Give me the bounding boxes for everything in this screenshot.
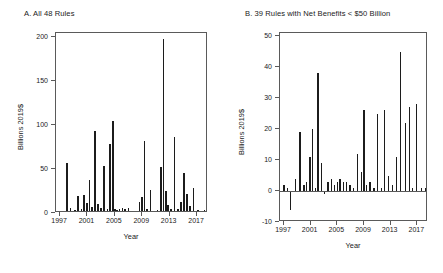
bar [186, 194, 188, 211]
bar [309, 157, 311, 191]
x-tick-label: 2017 [188, 217, 204, 224]
bar [400, 52, 402, 191]
x-tick [283, 221, 284, 225]
x-tick-label: 1997 [51, 217, 67, 224]
panel-b-x-axis-title: Year [346, 241, 361, 250]
x-tick-label: 1997 [275, 226, 291, 233]
bar [112, 121, 114, 211]
y-tick-label: 10 [264, 156, 272, 163]
y-tick [275, 190, 279, 191]
x-tick-label: 2001 [302, 226, 318, 233]
bar [124, 209, 126, 211]
bar [89, 180, 91, 211]
panel-b-y-axis: -1001020304050 [221, 32, 279, 221]
x-tick [390, 221, 391, 225]
x-tick-label: 2009 [355, 226, 371, 233]
panel-a-x-axis-title: Year [124, 232, 139, 241]
x-tick [336, 221, 337, 225]
y-tick [275, 66, 279, 67]
y-tick-label: -10 [262, 218, 272, 225]
bar [405, 123, 407, 191]
bar [97, 204, 99, 211]
y-tick [51, 168, 55, 169]
bar [321, 163, 323, 191]
panel-a-plot-area [55, 32, 207, 212]
panel-b-title: B. 39 Rules with Net Benefits < $50 Bill… [245, 9, 390, 18]
bar [91, 207, 93, 211]
x-tick-label: 2013 [161, 217, 177, 224]
bar [327, 182, 329, 191]
y-tick-label: 100 [36, 121, 48, 128]
bar [83, 195, 85, 211]
x-tick-label: 2005 [329, 226, 345, 233]
panel-a: A. All 48 Rules 050100150200 19972001200… [0, 0, 222, 273]
bar [339, 179, 341, 191]
bar [128, 208, 130, 211]
bar [409, 107, 411, 191]
panel-b: B. 39 Rules with Net Benefits < $50 Bill… [221, 0, 443, 273]
y-tick-label: 20 [264, 125, 272, 132]
bar [66, 163, 68, 211]
bar [109, 144, 111, 211]
x-tick [310, 221, 311, 225]
panel-a-x-axis: 199720012005200920132017 [55, 212, 207, 232]
bar [343, 182, 345, 191]
bar [416, 104, 418, 191]
bar [94, 131, 96, 211]
bar [377, 114, 379, 191]
bar [357, 154, 359, 191]
bar [100, 208, 102, 211]
panel-b-y-axis-title: Billions 2019$ [237, 108, 246, 154]
y-tick [51, 36, 55, 37]
bar [189, 206, 191, 211]
bar [174, 137, 176, 211]
bar [180, 202, 182, 211]
x-tick [86, 212, 87, 216]
x-tick [363, 221, 364, 225]
bar [363, 110, 365, 191]
y-tick-label: 50 [264, 32, 272, 39]
bar [163, 39, 165, 211]
bar [312, 129, 314, 191]
panel-a-y-axis-title: Billions 2019$ [16, 104, 25, 150]
panel-a-title: A. All 48 Rules [24, 9, 75, 18]
panel-b-plot-area [279, 32, 427, 221]
bar [197, 210, 199, 211]
bar [103, 166, 105, 211]
bar [299, 132, 301, 191]
bar [369, 182, 371, 191]
panel-a-y-axis: 050100150200 [0, 32, 55, 212]
y-tick [275, 128, 279, 129]
bar [396, 157, 398, 191]
bar [384, 110, 386, 191]
x-tick-label: 2005 [106, 217, 122, 224]
bar [70, 208, 72, 211]
figure-container: A. All 48 Rules 050100150200 19972001200… [0, 0, 443, 273]
bar [144, 141, 146, 211]
y-tick-label: 40 [264, 63, 272, 70]
x-tick-label: 2017 [409, 226, 425, 233]
y-tick-label: 0 [268, 187, 272, 194]
y-tick-label: 0 [44, 209, 48, 216]
bar [337, 182, 339, 191]
panel-b-x-axis: 199720012005200920132017 [279, 221, 427, 241]
bar [183, 173, 185, 211]
y-tick [51, 124, 55, 125]
x-tick [114, 212, 115, 216]
x-tick-label: 2009 [133, 217, 149, 224]
panel-b-bars [280, 33, 426, 220]
bar [177, 209, 179, 211]
bar [116, 210, 118, 211]
zero-baseline [280, 191, 426, 192]
bar [193, 188, 195, 211]
y-tick [275, 35, 279, 36]
bar [290, 191, 292, 210]
bar [150, 190, 152, 211]
bar [74, 210, 76, 211]
bar [204, 210, 206, 211]
bar [77, 196, 79, 211]
y-tick [275, 159, 279, 160]
bar [81, 209, 83, 211]
x-tick [196, 212, 197, 216]
y-tick-label: 200 [36, 33, 48, 40]
